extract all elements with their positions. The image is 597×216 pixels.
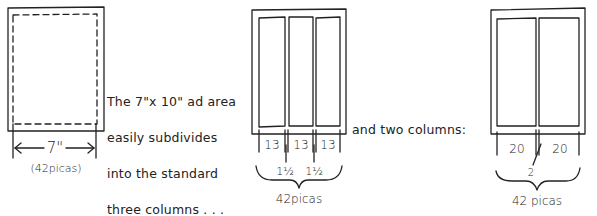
- two-columns-caption: and two columns:: [352, 124, 466, 136]
- column-width-label: 13: [264, 138, 279, 152]
- three-columns-panel: 13 13 13 1½ 1½ 42picas: [252, 9, 346, 206]
- total-width-brace: [256, 166, 342, 188]
- column-2: [289, 17, 313, 126]
- total-width-label: 42 picas: [512, 194, 562, 208]
- column-width-label: 20: [552, 142, 567, 156]
- caption-line: easily subdivides: [107, 132, 236, 144]
- ad-area-dashed-border: [13, 14, 97, 124]
- total-width-label: 42picas: [276, 192, 322, 206]
- column-1: [259, 17, 285, 127]
- total-width-brace: [496, 168, 580, 190]
- caption-line: The 7"x 10" ad area: [107, 96, 236, 108]
- column-1: [497, 18, 536, 126]
- three-columns-caption: The 7"x 10" ad area easily subdivides in…: [107, 72, 236, 216]
- column-width-label: 20: [509, 142, 524, 156]
- column-width-label: 13: [320, 138, 335, 152]
- diagram-canvas: 7" (42picas) 13 13 13 1½ 1½ 42picas: [0, 0, 597, 216]
- gutter-leader: [533, 144, 541, 165]
- gutter-width-label: 2: [528, 167, 534, 178]
- ad-width-picas-label: (42picas): [30, 162, 81, 175]
- three-col-outer-border: [252, 9, 346, 134]
- gutter-width-label: 1½: [276, 165, 294, 178]
- gutter-width-label: 1½: [305, 165, 323, 178]
- ad-area-outer-border: [8, 7, 104, 131]
- column-width-label: 13: [293, 138, 308, 152]
- two-columns-panel: 20 20 2 42 picas: [491, 8, 585, 208]
- ad-width-label: 7": [47, 139, 63, 157]
- caption-line: three columns . . .: [107, 204, 236, 216]
- column-2: [539, 18, 579, 126]
- two-col-outer-border: [491, 8, 585, 134]
- column-3: [316, 17, 340, 126]
- caption-line: into the standard: [107, 168, 236, 180]
- ad-area-panel: 7" (42picas): [8, 7, 104, 175]
